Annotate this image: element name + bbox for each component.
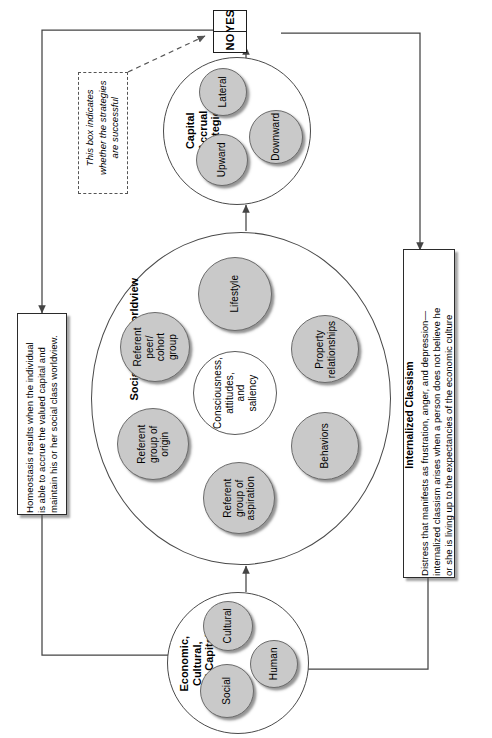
node-referent-peer-cohort-group-label: Referent peer/ cohort group — [132, 313, 178, 381]
node-consciousness[interactable]: Consciousness, attitudes, and saliency — [193, 351, 277, 435]
node-downward-label: Downward — [270, 111, 282, 163]
annotation-box: This box indicates whether the strategie… — [78, 72, 128, 194]
node-downward[interactable]: Downward — [249, 110, 303, 164]
node-referent-peer-cohort-group[interactable]: Referent peer/ cohort group — [120, 312, 190, 382]
node-cultural-label: Cultural — [222, 602, 234, 650]
internalized-classism-text: Distress that manifests as frustration, … — [419, 254, 455, 576]
node-upward[interactable]: Upward — [196, 134, 248, 186]
decision-no-label: NO — [224, 33, 236, 50]
node-human-label: Human — [268, 641, 280, 687]
node-referent-group-aspiration-label: Referent group of aspiration — [222, 463, 257, 533]
homeostasis-box: Homeostasis results when the individual … — [17, 313, 67, 515]
node-behaviors-label: Behaviors — [319, 413, 331, 479]
diagram-canvas: YES NO This box indicates whether the st… — [0, 0, 492, 738]
node-lateral-label: Lateral — [217, 69, 229, 115]
node-property-relationships-label: Property relationships — [314, 316, 337, 382]
node-cultural[interactable]: Cultural — [203, 601, 253, 651]
decision-no-cell[interactable]: NO — [214, 32, 246, 52]
decision-box[interactable]: YES NO — [213, 10, 247, 53]
annotation-text: This box indicates whether the strategie… — [84, 69, 122, 187]
node-property-relationships[interactable]: Property relationships — [291, 315, 359, 383]
homeostasis-text: Homeostasis results when the individual … — [24, 315, 60, 513]
node-lateral[interactable]: Lateral — [199, 68, 247, 116]
internalized-classism-box: Internalized Classism Distress that mani… — [403, 249, 455, 578]
node-human[interactable]: Human — [250, 640, 298, 688]
node-lifestyle-label: Lifestyle — [229, 259, 241, 329]
node-social-label: Social — [221, 665, 233, 717]
node-lifestyle[interactable]: Lifestyle — [198, 257, 272, 331]
decision-yes-label: YES — [224, 10, 236, 33]
node-upward-label: Upward — [216, 135, 228, 185]
node-social[interactable]: Social — [200, 664, 254, 718]
decision-yes-cell[interactable]: YES — [214, 11, 246, 32]
internalized-classism-title: Internalized Classism — [403, 254, 415, 576]
node-consciousness-label: Consciousness, attitudes, and saliency — [212, 353, 258, 433]
node-referent-group-aspiration[interactable]: Referent group of aspiration — [203, 462, 275, 534]
node-behaviors[interactable]: Behaviors — [291, 412, 359, 480]
